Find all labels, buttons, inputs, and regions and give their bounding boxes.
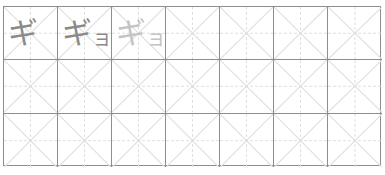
grid-cell: ギョ	[58, 7, 112, 60]
grid-cell	[4, 114, 58, 167]
grid-cell	[4, 60, 58, 113]
grid-cell	[274, 114, 328, 167]
cross-guide-lines	[166, 60, 219, 112]
cross-guide-lines	[274, 60, 327, 112]
grid-cell	[166, 7, 220, 60]
kana-main: ギ	[116, 18, 146, 48]
cross-guide-lines	[328, 7, 382, 59]
grid-cell	[58, 60, 112, 113]
sample-character: ギ	[4, 7, 57, 59]
grid-cell: ギ	[4, 7, 58, 60]
grid-cell	[166, 60, 220, 113]
cross-guide-lines	[112, 114, 165, 167]
kana-main: ギ	[62, 18, 92, 48]
cross-guide-lines	[112, 60, 165, 112]
grid-cell	[220, 114, 274, 167]
grid-cell	[166, 114, 220, 167]
grid-cell	[112, 60, 166, 113]
cross-guide-lines	[220, 7, 273, 59]
cross-guide-lines	[58, 114, 111, 167]
grid-cell	[328, 7, 382, 60]
sample-character: ギョ	[58, 7, 111, 59]
cross-guide-lines	[166, 114, 219, 167]
cross-guide-lines	[4, 60, 57, 112]
cross-guide-lines	[220, 114, 273, 167]
grid-cell	[112, 114, 166, 167]
grid-cell	[274, 7, 328, 60]
kana-small: ョ	[92, 28, 112, 48]
cross-guide-lines	[274, 114, 327, 167]
cross-guide-lines	[328, 60, 382, 112]
grid-cell	[220, 60, 274, 113]
grid-cell: ギョ	[112, 7, 166, 60]
grid-cell	[328, 114, 382, 167]
practice-sheet: ギギョギョ	[3, 6, 381, 166]
trace-character: ギョ	[112, 7, 165, 59]
writing-grid: ギギョギョ	[3, 6, 381, 166]
kana-small: ョ	[146, 28, 166, 48]
kana-main: ギ	[8, 18, 38, 48]
grid-cell	[328, 60, 382, 113]
cross-guide-lines	[328, 114, 382, 167]
grid-cell	[220, 7, 274, 60]
cross-guide-lines	[274, 7, 327, 59]
grid-cell	[274, 60, 328, 113]
cross-guide-lines	[166, 7, 219, 59]
cross-guide-lines	[220, 60, 273, 112]
cross-guide-lines	[4, 114, 57, 167]
cross-guide-lines	[58, 60, 111, 112]
grid-cell	[58, 114, 112, 167]
